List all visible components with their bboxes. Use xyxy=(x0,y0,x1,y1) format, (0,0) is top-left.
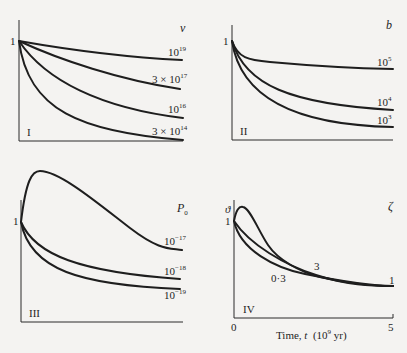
panel-1-label-1e16: 1016 xyxy=(168,102,187,115)
panel-2-variable-label: b xyxy=(386,18,392,32)
panel-2-roman-label: II xyxy=(240,125,248,137)
panel-4-label-1: 1 xyxy=(389,274,395,286)
panel-1-y-tick: 1 xyxy=(10,35,16,47)
panel-3: 1 P0 III 10−17 10−18 10−19 xyxy=(13,171,188,322)
panel-3-y-tick: 1 xyxy=(13,215,19,227)
panel-1-label-3e17: 3 × 1017 xyxy=(152,72,188,85)
panel-3-label-1e-19: 10−19 xyxy=(164,288,186,301)
panel-3-label-1e-17: 10−17 xyxy=(164,234,186,247)
panel-4-axes xyxy=(234,200,393,318)
panel-3-curve-1e-18 xyxy=(21,222,180,279)
panel-2-label-1e4: 104 xyxy=(377,95,392,108)
panel-4-x-tick-0: 0 xyxy=(231,321,237,333)
panel-2-curve-1e3 xyxy=(232,41,393,127)
panel-4-roman-label: IV xyxy=(243,303,255,315)
panel-1-variable-label: v xyxy=(180,21,186,35)
panel-2-label-1e5: 105 xyxy=(377,55,392,68)
panel-3-curve-1e-19 xyxy=(21,222,180,289)
panel-4-x-tick-5: 5 xyxy=(388,321,394,333)
panel-3-curve-1e-17 xyxy=(21,171,182,250)
panel-4-variable-label: ζ xyxy=(388,199,394,213)
panel-1-label-1e19: 1019 xyxy=(168,45,187,58)
panel-2-curve-1e4 xyxy=(232,41,393,110)
panel-4-y-tick: 1 xyxy=(225,215,231,227)
panel-2-axes xyxy=(232,25,393,140)
panel-2-label-1e3: 103 xyxy=(377,113,392,126)
panel-3-variable-label: P0 xyxy=(176,201,188,217)
panel-4-label-3: 3 xyxy=(314,260,320,272)
panel-2-y-tick: 1 xyxy=(223,35,229,47)
panel-4-label-0.3: 0·3 xyxy=(271,272,286,284)
panel-4-y-tick-theta: ϑ xyxy=(225,203,231,215)
panel-1-roman-label: I xyxy=(27,126,31,138)
panel-4-x-axis-label: Time, t (109 yr) xyxy=(276,328,347,342)
panel-4-curve-0.3 xyxy=(234,221,393,286)
figure: 1 v I 1019 3 × 1017 1016 3 × 1014 1 b II… xyxy=(0,0,407,353)
panel-3-label-1e-18: 10−18 xyxy=(164,264,186,277)
panel-1-label-3e14: 3 × 1014 xyxy=(152,124,188,137)
panel-1: 1 v I 1019 3 × 1017 1016 3 × 1014 xyxy=(10,20,188,141)
panel-4: ϑ 1 ζ IV 0·3 3 1 0 5 Time, t (109 yr) xyxy=(225,199,395,342)
panel-2: 1 b II 105 104 103 xyxy=(223,18,393,140)
panel-2-curve-1e5 xyxy=(232,41,393,69)
panel-3-roman-label: III xyxy=(29,307,40,319)
